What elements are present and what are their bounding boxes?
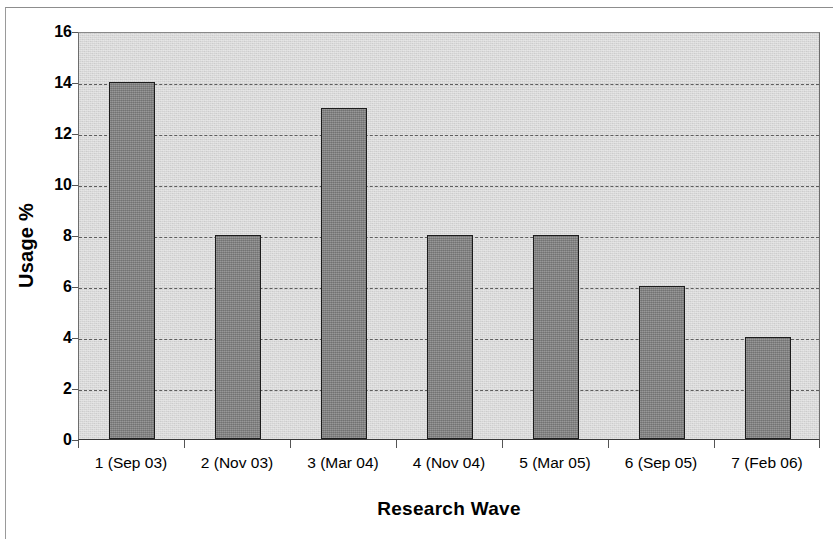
x-axis-title: Research Wave [78, 498, 820, 520]
x-tick-mark [608, 440, 609, 448]
y-tick-label: 14 [54, 75, 72, 91]
x-tick-label: 2 (Nov 03) [201, 455, 273, 471]
x-tick-label: 4 (Nov 04) [413, 455, 485, 471]
x-tick-label: 3 (Mar 04) [307, 455, 379, 471]
bar[interactable] [321, 108, 367, 440]
y-tick-label: 16 [54, 24, 72, 40]
y-tick-label: 12 [54, 126, 72, 142]
bar[interactable] [427, 235, 473, 439]
bars-container [79, 33, 819, 439]
bar[interactable] [533, 235, 579, 439]
x-tick-mark [78, 440, 79, 448]
y-tick-label: 8 [63, 228, 72, 244]
x-tick-label: 7 (Feb 06) [731, 455, 803, 471]
x-tick-mark [502, 440, 503, 448]
bar-chart: Usage % 1614121086420 1 (Sep 03)2 (Nov 0… [0, 0, 835, 539]
plot-area [78, 32, 820, 440]
x-tick-label: 6 (Sep 05) [625, 455, 697, 471]
x-tick-label: 5 (Mar 05) [519, 455, 591, 471]
y-tick-label: 4 [63, 330, 72, 346]
x-tick-mark [714, 440, 715, 448]
x-tick-mark [290, 440, 291, 448]
x-axis-labels: 1 (Sep 03)2 (Nov 03)3 (Mar 04)4 (Nov 04)… [78, 455, 820, 481]
x-tick-mark [819, 440, 820, 448]
bar[interactable] [745, 337, 791, 439]
bar[interactable] [215, 235, 261, 439]
bar[interactable] [109, 82, 155, 439]
x-tick-mark [396, 440, 397, 448]
x-tick-mark [184, 440, 185, 448]
y-axis-ticks: 1614121086420 [38, 32, 72, 440]
y-axis-title-label: Usage % [15, 203, 38, 288]
y-tick-label: 2 [63, 381, 72, 397]
bar[interactable] [639, 286, 685, 439]
x-tick-label: 1 (Sep 03) [95, 455, 167, 471]
y-tick-label: 10 [54, 177, 72, 193]
y-tick-label: 0 [63, 432, 72, 448]
y-tick-label: 6 [63, 279, 72, 295]
x-axis-ticks [78, 440, 820, 450]
